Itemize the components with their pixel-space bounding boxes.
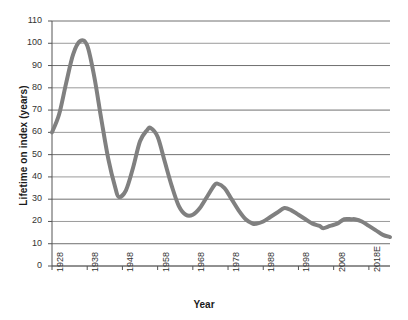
y-axis-tick-label: 10	[16, 239, 42, 248]
y-axis-tick-label: 50	[16, 150, 42, 159]
plot-area	[0, 0, 408, 320]
y-axis-tick-label: 90	[16, 61, 42, 70]
x-axis-tick-label: 1938	[91, 252, 100, 272]
y-axis-tick-label: 40	[16, 172, 42, 181]
chart-page: Lifetime on index (years) 01020304050607…	[0, 0, 408, 320]
data-series-line	[52, 40, 390, 237]
x-axis-tick-label: 2018E	[373, 246, 382, 272]
y-axis-tick-label: 70	[16, 105, 42, 114]
x-axis-tick-label: 1928	[56, 252, 65, 272]
x-axis-tick-label: 1998	[302, 252, 311, 272]
x-axis-tick-label: 1958	[162, 252, 171, 272]
x-axis-tick-label: 1988	[267, 252, 276, 272]
x-axis-tick-label: 1968	[197, 252, 206, 272]
y-axis-tick-label: 100	[16, 38, 42, 47]
y-axis-tick-label: 110	[16, 16, 42, 25]
y-axis-tick-label: 60	[16, 127, 42, 136]
x-axis-tick-label: 1948	[126, 252, 135, 272]
x-axis-tick-label: 1978	[232, 252, 241, 272]
y-axis-tick-label: 80	[16, 83, 42, 92]
gridlines	[52, 21, 390, 266]
y-axis-tick-label: 20	[16, 216, 42, 225]
x-axis-title: Year	[0, 299, 408, 310]
line-chart: Lifetime on index (years) 01020304050607…	[0, 0, 408, 320]
y-axis-tick-label: 0	[16, 261, 42, 270]
y-axis-ticks	[48, 21, 52, 266]
axis-lines	[52, 21, 390, 266]
x-axis-tick-label: 2008	[338, 252, 347, 272]
y-axis-tick-label: 30	[16, 194, 42, 203]
